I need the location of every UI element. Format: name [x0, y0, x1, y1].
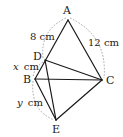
variable-y: y [16, 97, 23, 108]
segment-bc [35, 79, 102, 80]
point-label-a: A [62, 4, 72, 17]
segment-ce [56, 80, 102, 120]
geometry-figure: A D B C E 8 cm 12 cm x cm y cm [0, 0, 123, 137]
measure-db: x cm [13, 61, 39, 72]
segment-dc [45, 60, 102, 80]
unit-y: cm [28, 97, 44, 108]
segment-de [45, 60, 56, 120]
point-label-e: E [52, 123, 60, 136]
measure-ac: 12 cm [88, 37, 120, 48]
segment-ac [68, 20, 102, 80]
point-label-c: C [106, 74, 114, 87]
variable-x: x [13, 61, 19, 72]
triangle-diagram: A D B C E 8 cm 12 cm x cm y cm [0, 0, 123, 137]
dimension-arc-ac [70, 18, 104, 78]
measure-ad: 8 cm [30, 31, 55, 42]
unit-x: cm [24, 61, 40, 72]
point-label-b: B [23, 73, 31, 86]
measure-be: y cm [16, 97, 43, 108]
